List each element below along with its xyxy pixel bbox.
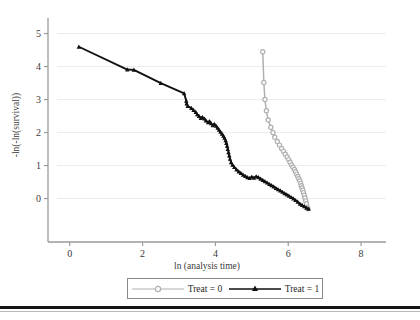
series-line [79,47,309,209]
series-marker [271,130,275,134]
series-marker [266,118,270,122]
legend-item-treat-1[interactable]: Treat = 1 [228,283,320,295]
series-marker [269,125,273,129]
survival-plot-figure: 01234502468 -ln(-ln(survival)) ln (analy… [0,0,420,320]
y-tick-label: 0 [36,193,41,204]
y-tick-label: 4 [36,61,41,72]
chart-canvas: 01234502468 [0,0,420,320]
legend-label-treat-1: Treat = 1 [285,284,320,294]
data-series [77,44,311,210]
series-marker [273,135,277,139]
axis-ticks [44,34,361,246]
x-tick-label: 4 [213,248,218,259]
x-tick-label: 6 [286,248,291,259]
y-tick-label: 2 [36,127,41,138]
legend-swatch-treat-1 [228,283,282,295]
series-marker [264,109,268,113]
legend-item-treat-0[interactable]: Treat = 0 [131,283,223,295]
x-tick-label: 2 [140,248,145,259]
footer-rule [0,306,420,309]
legend-label-treat-0: Treat = 0 [188,284,223,294]
axis-lines [48,18,386,242]
y-tick-label: 3 [36,94,41,105]
y-tick-label: 1 [36,160,41,171]
series-marker [261,50,265,54]
series-treat-0 [261,50,310,211]
x-axis-title: ln (analysis time) [57,261,357,271]
grid-lines [57,34,386,199]
footer-rule-secondary [0,311,420,312]
chart-legend: Treat = 0 Treat = 1 [127,278,323,299]
x-tick-label: 8 [359,248,364,259]
y-axis-title: -ln(-ln(survival)) [11,65,21,185]
axis-tick-labels: 01234502468 [36,28,364,259]
series-treat-1 [77,44,311,210]
x-tick-label: 0 [67,248,72,259]
series-marker [262,80,266,84]
y-tick-label: 5 [36,28,41,39]
legend-swatch-treat-0 [131,283,185,295]
series-marker [263,97,267,101]
